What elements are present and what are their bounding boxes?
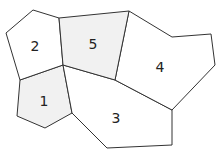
region-label-5: 5: [89, 36, 98, 52]
region-label-2: 2: [31, 38, 40, 54]
region-label-1: 1: [40, 93, 49, 109]
region-map-svg: 12345: [0, 0, 222, 151]
region-label-4: 4: [156, 59, 165, 75]
region-label-3: 3: [112, 110, 121, 126]
region-diagram: 12345: [0, 0, 222, 151]
